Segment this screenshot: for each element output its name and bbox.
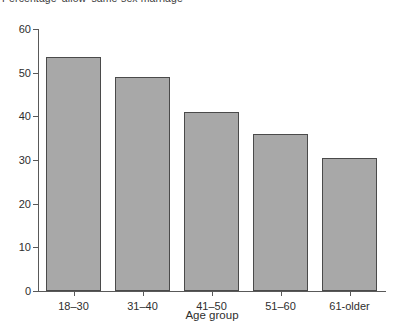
bar [184,112,239,291]
x-tick-mark [143,291,144,296]
chart-title: Percentage 'allow' same-sex marriage [2,0,183,4]
y-tick-label: 40 [19,110,31,122]
y-tick-label: 30 [19,154,31,166]
y-tick-label: 0 [25,285,31,297]
y-tick-mark [33,116,38,117]
x-axis-title: Age group [38,309,386,321]
y-tick-label: 60 [19,23,31,35]
y-tick-mark [33,291,38,292]
bar [322,158,377,291]
bar [115,77,170,291]
y-tick-mark [33,160,38,161]
chart-screenshot: Percentage 'allow' same-sex marriage 010… [0,0,393,327]
bar [46,57,101,291]
y-tick-label: 10 [19,241,31,253]
bar [253,134,308,291]
y-tick-mark [33,29,38,30]
plot-area: 0102030405060 18–3031–4041–5051–6061-old… [38,29,386,291]
x-tick-mark [74,291,75,296]
x-tick-mark [212,291,213,296]
x-tick-mark [350,291,351,296]
y-tick-mark [33,73,38,74]
y-tick-label: 50 [19,67,31,79]
y-tick-mark [33,204,38,205]
y-tick-mark [33,247,38,248]
x-tick-mark [281,291,282,296]
y-tick-label: 20 [19,198,31,210]
